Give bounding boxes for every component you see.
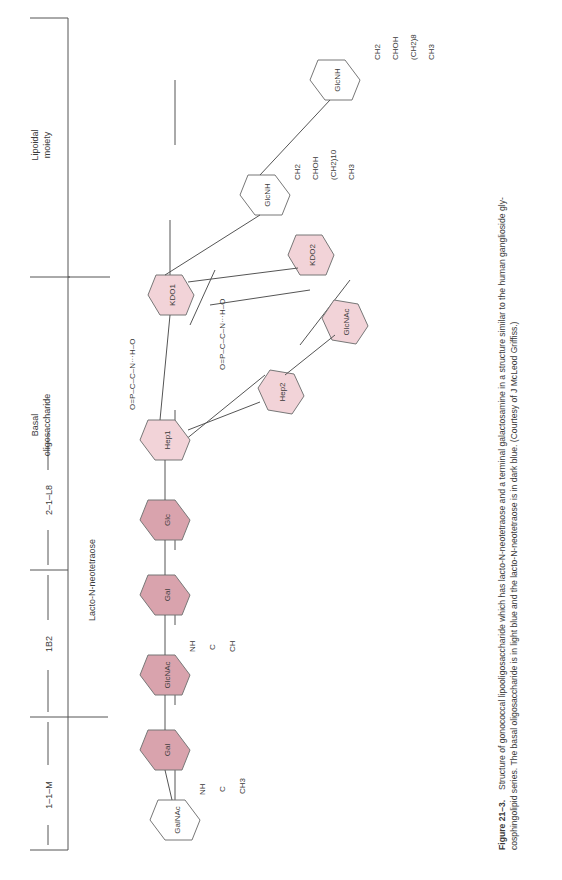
svg-text:(CH2)8: (CH2)8 bbox=[409, 34, 418, 60]
sugar-kdo-1: KDO1 bbox=[148, 275, 194, 315]
region-basal-label-2: oligosaccharide bbox=[42, 394, 52, 457]
sugar-glcnac-2: GlcNAc bbox=[322, 300, 368, 344]
region-basal-label: Basal bbox=[30, 414, 40, 437]
caption-label: Figure 21–3. bbox=[497, 800, 507, 850]
epitope-2-1-l8: 2–1–L8 bbox=[44, 485, 54, 515]
svg-text:C: C bbox=[208, 644, 217, 650]
ethanolamine-phosphate-2: O=P–C–C–N···H–O bbox=[218, 299, 227, 370]
sugar-galnac: GalNAc bbox=[150, 800, 200, 840]
svg-text:CH: CH bbox=[228, 640, 237, 652]
sugar-glcnac-1: GlcNAc bbox=[140, 655, 190, 695]
svg-text:C: C bbox=[218, 786, 227, 792]
sugar-kdo-2: KDO2 bbox=[288, 235, 334, 275]
svg-text:Gal: Gal bbox=[163, 589, 172, 602]
svg-text:GalNAc: GalNAc bbox=[173, 806, 182, 834]
lipooligosaccharide-figure: 1–1–M 1B2 2–1–L8 Lacto-N-neotetraose Bas… bbox=[0, 0, 562, 880]
sugar-hep-2: Hep2 bbox=[258, 370, 304, 414]
region-lipoidal-label-2: moiety bbox=[42, 131, 52, 158]
svg-text:GlcNAc: GlcNAc bbox=[163, 661, 172, 688]
svg-text:KDO1: KDO1 bbox=[168, 284, 177, 306]
caption-line-2: cosphingolipid series. The basal oligosa… bbox=[509, 321, 519, 850]
svg-text:Hep2: Hep2 bbox=[278, 382, 287, 402]
svg-text:CH2: CH2 bbox=[373, 43, 382, 60]
lipid-a-chains: CH2 CHOH (CH2)10 CH3 CH2 CHOH (CH2)8 CH3 bbox=[293, 34, 436, 180]
sugar-glcnh-2: GlcNH bbox=[310, 60, 360, 100]
caption-line-1: Structure of gonococcal lipooligosacchar… bbox=[497, 197, 507, 790]
region-lipoidal-label: Lipoidal bbox=[30, 129, 40, 160]
svg-text:Figure 21–3.: Figure 21–3. bbox=[497, 800, 507, 850]
region-lacto-label: Lacto-N-neotetraose bbox=[87, 539, 97, 621]
svg-text:CHOH: CHOH bbox=[391, 36, 400, 60]
svg-text:CH3: CH3 bbox=[238, 777, 247, 794]
acetyl-group-glcnac: NH C CH bbox=[188, 640, 237, 652]
figure-caption: Figure 21–3. Structure of gonococcal lip… bbox=[497, 197, 519, 850]
svg-text:Glc: Glc bbox=[163, 514, 172, 526]
sugar-gal-2: Gal bbox=[140, 575, 190, 615]
svg-text:CHOH: CHOH bbox=[311, 156, 320, 180]
svg-text:KDO2: KDO2 bbox=[308, 244, 317, 266]
svg-text:CH3: CH3 bbox=[347, 163, 356, 180]
acetyl-group-galnac: NH C CH3 bbox=[198, 777, 247, 795]
sugar-glc: Glc bbox=[140, 500, 190, 540]
svg-text:GlcNH: GlcNH bbox=[333, 68, 342, 92]
svg-text:(CH2)10: (CH2)10 bbox=[329, 149, 338, 180]
svg-text:Gal: Gal bbox=[163, 744, 172, 757]
sugar-hep-1: Hep1 bbox=[140, 420, 190, 460]
ethanolamine-phosphate-1: O=P–C–C–N···H–O bbox=[128, 339, 137, 410]
svg-text:CH3: CH3 bbox=[427, 43, 436, 60]
svg-text:GlcNAc: GlcNAc bbox=[342, 308, 351, 335]
svg-text:CH2: CH2 bbox=[293, 163, 302, 180]
svg-text:Hep1: Hep1 bbox=[163, 430, 172, 450]
svg-text:GlcNH: GlcNH bbox=[263, 183, 272, 207]
epitope-arrows: 1–1–M 1B2 2–1–L8 bbox=[40, 432, 56, 845]
sugar-glcnh-1: GlcNH bbox=[240, 175, 290, 215]
epitope-1b2: 1B2 bbox=[44, 636, 54, 652]
sugar-gal-1: Gal bbox=[140, 730, 190, 770]
svg-text:NH: NH bbox=[198, 783, 207, 795]
svg-text:NH: NH bbox=[188, 640, 197, 652]
epitope-1-1-m: 1–1–M bbox=[44, 781, 54, 809]
